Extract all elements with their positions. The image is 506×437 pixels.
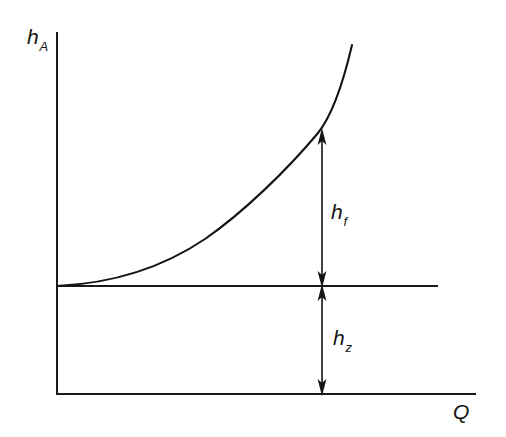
friction-head-dimension-arrow xyxy=(318,128,327,288)
y-axis-label: hA xyxy=(27,26,48,50)
system-head-curve-figure: hA Q hf hz xyxy=(0,0,506,437)
friction-head-label-variable: h xyxy=(331,200,343,223)
static-head-dimension-arrow xyxy=(318,284,327,396)
static-head-label-variable: h xyxy=(333,326,345,349)
friction-head-label: hf xyxy=(331,201,347,225)
system-characteristic-curve xyxy=(57,45,352,286)
static-head-label-subscript: z xyxy=(345,340,352,355)
x-axis-label: Q xyxy=(453,401,470,425)
y-axis-label-subscript: A xyxy=(39,39,48,54)
static-head-label: hz xyxy=(333,327,351,351)
diagram-canvas xyxy=(0,0,506,437)
x-axis-label-variable: Q xyxy=(453,400,470,423)
y-axis-label-variable: h xyxy=(27,25,39,48)
friction-head-label-subscript: f xyxy=(343,214,347,229)
